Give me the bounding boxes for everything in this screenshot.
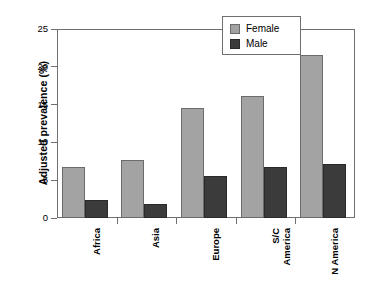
x-tick-mark (117, 218, 118, 224)
bar-s-c-america-male (264, 167, 287, 218)
legend: Female Male (222, 16, 301, 55)
bar-africa-male (85, 200, 108, 218)
x-tick-label: S/C America (270, 228, 292, 294)
y-tick-mark (51, 142, 57, 143)
bar-n-america-female (300, 55, 323, 218)
y-tick-mark (51, 66, 57, 67)
legend-item-male: Male (230, 36, 300, 51)
x-tick-label: Europe (210, 228, 221, 294)
y-tick-label: 25 (16, 22, 48, 35)
x-tick-label: Africa (91, 228, 102, 294)
y-axis-title: Adjusted prevalence (%) (37, 28, 49, 218)
y-tick-label: 0 (16, 211, 48, 224)
y-tick-label: 15 (16, 98, 48, 111)
bar-europe-female (181, 108, 204, 218)
x-tick-label: Asia (150, 228, 161, 294)
x-tick-label: N America (329, 228, 340, 294)
legend-label-male: Male (246, 38, 268, 50)
bar-n-america-male (323, 164, 346, 218)
x-tick-mark (295, 218, 296, 224)
male-swatch-icon (230, 39, 240, 49)
female-swatch-icon (230, 24, 240, 34)
bar-chart: Adjusted prevalence (%) 0510152025 Afric… (0, 0, 370, 294)
y-tick-mark (51, 29, 57, 30)
y-tick-mark (51, 218, 57, 219)
bar-s-c-america-female (241, 96, 264, 218)
y-tick-label: 10 (16, 135, 48, 148)
y-tick-label: 5 (16, 173, 48, 186)
y-tick-label: 20 (16, 60, 48, 73)
bar-africa-female (62, 167, 85, 218)
y-tick-mark (51, 104, 57, 105)
x-tick-mark (176, 218, 177, 224)
bar-europe-male (204, 176, 227, 218)
bar-asia-male (144, 204, 167, 218)
x-tick-mark (236, 218, 237, 224)
y-tick-mark (51, 180, 57, 181)
legend-label-female: Female (246, 23, 279, 35)
bar-asia-female (121, 160, 144, 218)
legend-item-female: Female (230, 21, 300, 36)
